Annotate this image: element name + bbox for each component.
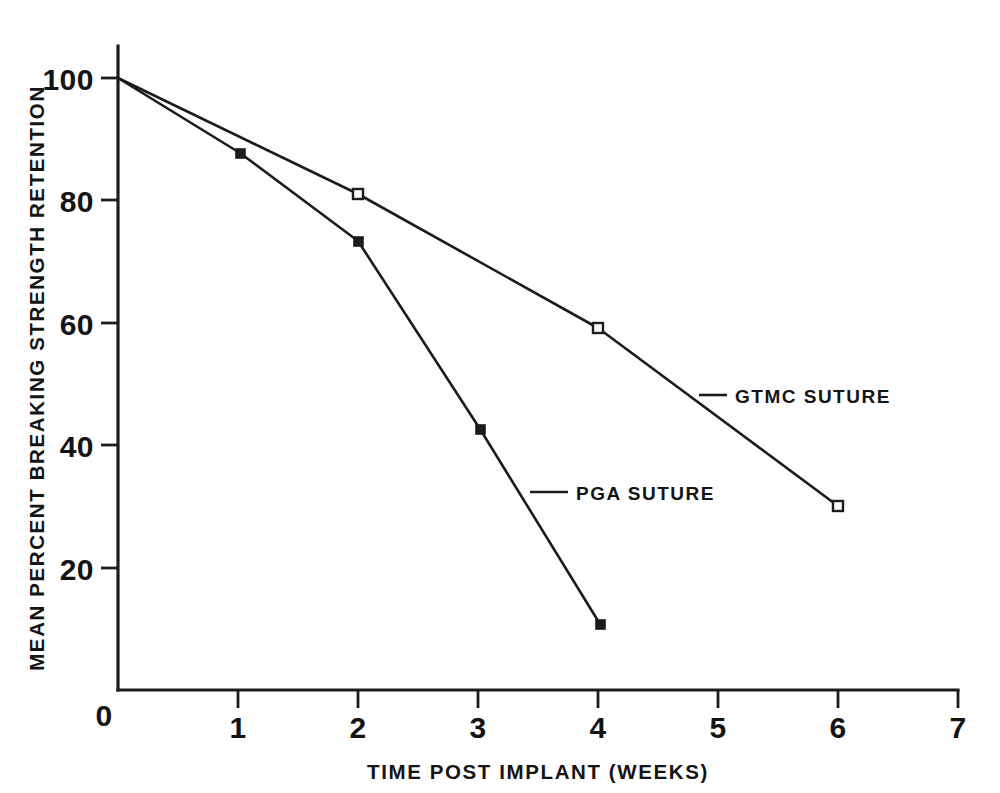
series-gtmc-suture xyxy=(118,78,843,511)
y-axis-title: MEAN PERCENT BREAKING STRENGTH RETENTION xyxy=(25,85,48,671)
x-tick-label-3: 3 xyxy=(469,711,486,744)
series-pga-line xyxy=(118,78,600,624)
y-tick-label-100: 100 xyxy=(42,63,94,96)
series-gtmc-line xyxy=(118,78,838,506)
series-pga-suture xyxy=(118,78,605,629)
gtmc-suture-label: GTMC SUTURE xyxy=(735,386,891,407)
breaking-strength-retention-line-chart: 100 80 60 40 20 0 1 2 3 4 5 6 7 xyxy=(0,0,1000,793)
y-axis-ticks xyxy=(101,78,118,568)
y-axis-tick-labels: 100 80 60 40 20 0 xyxy=(42,63,112,732)
annotation-gtmc-suture: GTMC SUTURE xyxy=(699,386,891,407)
annotation-pga-suture: PGA SUTURE xyxy=(530,483,715,504)
y-tick-label-60: 60 xyxy=(60,308,94,341)
y-tick-label-40: 40 xyxy=(60,430,94,463)
x-tick-label-6: 6 xyxy=(829,711,846,744)
data-point-pga-week3 xyxy=(476,425,485,434)
x-axis-title: TIME POST IMPLANT (WEEKS) xyxy=(367,760,709,783)
data-point-pga-week2 xyxy=(354,237,363,246)
x-tick-label-7: 7 xyxy=(949,711,966,744)
x-tick-label-2: 2 xyxy=(349,711,366,744)
data-point-gtmc-week6 xyxy=(833,501,843,511)
y-tick-label-0: 0 xyxy=(95,699,112,732)
chart-figure: 100 80 60 40 20 0 1 2 3 4 5 6 7 xyxy=(0,0,1000,793)
data-point-gtmc-week4 xyxy=(593,323,603,333)
pga-suture-label: PGA SUTURE xyxy=(576,483,715,504)
x-tick-label-4: 4 xyxy=(589,711,606,744)
data-point-gtmc-week2 xyxy=(353,189,363,199)
y-tick-label-20: 20 xyxy=(60,553,94,586)
data-point-pga-week4 xyxy=(596,620,605,629)
data-point-pga-week1 xyxy=(236,149,245,158)
x-axis-ticks xyxy=(238,690,958,708)
x-axis-tick-labels: 1 2 3 4 5 6 7 xyxy=(229,711,966,744)
y-tick-label-80: 80 xyxy=(60,185,94,218)
x-tick-label-1: 1 xyxy=(229,711,246,744)
axes-group xyxy=(118,46,958,690)
x-tick-label-5: 5 xyxy=(709,711,726,744)
